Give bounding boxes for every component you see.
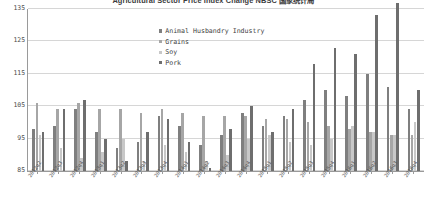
x-axis-label-cell: 2016q1 bbox=[340, 174, 361, 204]
bar bbox=[104, 139, 107, 171]
chart-title: Agricultural Sector Price Index Change N… bbox=[0, 0, 427, 5]
x-axis-label-cell: 2015q1 bbox=[257, 174, 278, 204]
y-axis-tick-label: 105 bbox=[13, 101, 25, 109]
bar bbox=[417, 90, 420, 171]
x-axis-label-cell: 2014q1 bbox=[173, 174, 194, 204]
legend-label: Pork bbox=[165, 59, 181, 67]
legend-swatch-icon bbox=[159, 51, 162, 54]
x-axis-label-cell: 2015q4 bbox=[319, 174, 340, 204]
y-axis-tick-label: 115 bbox=[13, 69, 25, 77]
legend-item[interactable]: Soy bbox=[159, 48, 264, 56]
bar bbox=[375, 15, 378, 171]
x-axis-label-cell: 2013q4 bbox=[152, 174, 173, 204]
legend-label: Grains bbox=[165, 38, 189, 46]
bar bbox=[396, 3, 399, 171]
legend-label: Soy bbox=[165, 48, 177, 56]
x-axis-label-cell: 2012q2 bbox=[27, 174, 48, 204]
bar bbox=[42, 132, 45, 171]
x-axis-label-cell: 2012q4 bbox=[69, 174, 90, 204]
bar bbox=[354, 54, 357, 171]
bar-group bbox=[111, 9, 132, 171]
legend-item[interactable]: Pork bbox=[159, 59, 264, 67]
x-axis-label-cell: 2014q3 bbox=[215, 174, 236, 204]
x-axis-label-cell: 2013q2 bbox=[111, 174, 132, 204]
x-axis-label-cell: 2016q4 bbox=[403, 174, 424, 204]
bar bbox=[271, 132, 274, 171]
bar-group bbox=[341, 9, 362, 171]
legend-label: Animal Husbandry Industry bbox=[165, 27, 264, 35]
x-axis-labels: 2012q22012q32012q42013q12013q22013q32013… bbox=[27, 174, 424, 204]
legend-swatch-icon bbox=[159, 61, 162, 64]
bar-group bbox=[49, 9, 70, 171]
bar-group bbox=[362, 9, 383, 171]
x-axis-label-cell: 2013q1 bbox=[90, 174, 111, 204]
bar-group bbox=[28, 9, 49, 171]
x-axis-label-cell: 2016q3 bbox=[382, 174, 403, 204]
bar-group bbox=[278, 9, 299, 171]
x-axis-label-cell: 2012q3 bbox=[48, 174, 69, 204]
bar-group bbox=[320, 9, 341, 171]
legend-item[interactable]: Grains bbox=[159, 38, 264, 46]
bar bbox=[334, 48, 337, 171]
x-axis-label-cell: 2014q4 bbox=[236, 174, 257, 204]
legend-item[interactable]: Animal Husbandry Industry bbox=[159, 27, 264, 35]
x-axis-label-cell: 2013q3 bbox=[131, 174, 152, 204]
bar bbox=[229, 129, 232, 171]
y-axis-tick-label: 135 bbox=[13, 4, 25, 12]
bar bbox=[209, 168, 212, 171]
legend-swatch-icon bbox=[159, 40, 162, 43]
bar bbox=[83, 100, 86, 171]
chart-legend: Animal Husbandry IndustryGrainsSoyPork bbox=[159, 27, 264, 67]
x-axis-label-cell: 2015q3 bbox=[299, 174, 320, 204]
y-axis-tick-label: 125 bbox=[13, 36, 25, 44]
bar-group bbox=[132, 9, 153, 171]
bar-group bbox=[70, 9, 91, 171]
bar bbox=[188, 142, 191, 171]
bar-group bbox=[403, 9, 424, 171]
bar-group bbox=[299, 9, 320, 171]
bar bbox=[146, 132, 149, 171]
x-axis-label-cell: 2016q2 bbox=[361, 174, 382, 204]
bar-group bbox=[91, 9, 112, 171]
x-axis-label-cell: 2015q2 bbox=[278, 174, 299, 204]
legend-swatch-icon bbox=[159, 29, 162, 32]
bar-chart: Agricultural Sector Price Index Change N… bbox=[0, 0, 427, 204]
x-axis-label-cell: 2014q2 bbox=[194, 174, 215, 204]
y-axis-tick-label: 85 bbox=[17, 166, 25, 174]
bar bbox=[313, 64, 316, 171]
y-axis-tick-label: 95 bbox=[17, 134, 25, 142]
bar-group bbox=[382, 9, 403, 171]
